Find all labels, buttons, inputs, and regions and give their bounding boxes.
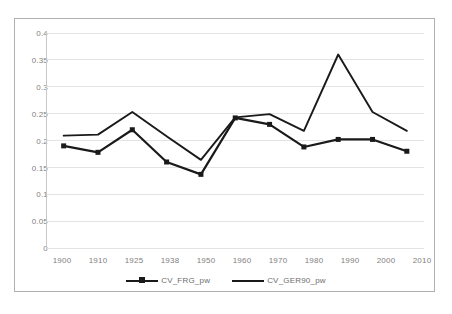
legend-label: CV_FRG_pw [161, 276, 210, 285]
legend-swatch-square-line-icon [126, 276, 158, 285]
chart-plot-frame [14, 18, 435, 292]
legend-swatch-line-icon [232, 276, 264, 285]
y-tick-label: 0.2 [20, 137, 48, 146]
legend-entry-cv-frg-pw: CV_FRG_pw [126, 276, 210, 285]
legend-entry-cv-ger90-pw: CV_GER90_pw [232, 276, 326, 285]
chart-figure: 0.4 0.35 0.3 0.25 0.2 0.15 0.1 0.05 0 19… [0, 0, 452, 314]
y-tick-label: 0 [20, 244, 48, 253]
legend-label: CV_GER90_pw [267, 276, 326, 285]
x-tick-label: 1960 [224, 256, 260, 265]
x-tick-label: 1990 [332, 256, 368, 265]
x-tick-label: 1938 [152, 256, 188, 265]
y-tick-label: 0.05 [20, 217, 48, 226]
x-tick-label: 1910 [80, 256, 116, 265]
x-tick-label: 1950 [188, 256, 224, 265]
y-tick-label: 0.1 [20, 190, 48, 199]
y-tick-label: 0.35 [20, 56, 48, 65]
y-tick-label: 0.3 [20, 83, 48, 92]
y-tick-label: 0.15 [20, 164, 48, 173]
x-tick-label: 1900 [44, 256, 80, 265]
x-tick-label: 2010 [404, 256, 440, 265]
x-tick-label: 2000 [368, 256, 404, 265]
x-tick-label: 1970 [260, 256, 296, 265]
y-tick-label: 0.25 [20, 110, 48, 119]
chart-legend: CV_FRG_pw CV_GER90_pw [0, 276, 452, 285]
x-tick-label: 1925 [116, 256, 152, 265]
y-tick-label: 0.4 [20, 29, 48, 38]
x-tick-label: 1980 [296, 256, 332, 265]
